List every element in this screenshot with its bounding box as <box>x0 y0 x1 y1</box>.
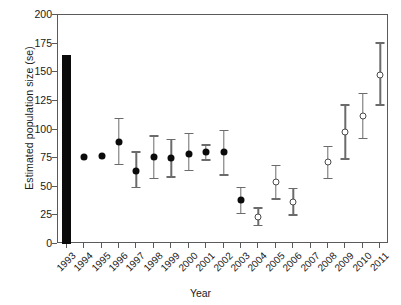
error-bar-cap <box>289 188 298 189</box>
x-tick-mark <box>275 243 276 248</box>
data-point-filled <box>115 139 122 146</box>
figure: Estimated population size (se) Year 0255… <box>0 0 401 305</box>
x-tick-label: 2011 <box>368 250 391 273</box>
x-tick-mark <box>240 243 241 248</box>
data-point-open <box>272 179 279 186</box>
error-bar-cap <box>202 144 211 145</box>
error-bar-cap <box>219 174 228 175</box>
error-bar-cap <box>376 104 385 105</box>
x-tick-mark <box>344 243 345 248</box>
error-bar-cap <box>114 118 123 119</box>
y-tick-label: 125 <box>12 94 52 106</box>
data-point-filled <box>237 197 244 204</box>
error-bar-cap <box>132 151 141 152</box>
error-bar-cap <box>358 138 367 139</box>
error-bar-cap <box>271 165 280 166</box>
error-bar-cap <box>149 178 158 179</box>
data-point-filled <box>150 153 157 160</box>
data-point-open <box>325 158 332 165</box>
x-tick-mark <box>153 243 154 248</box>
error-bar-cap <box>202 159 211 160</box>
error-bar-cap <box>376 42 385 43</box>
x-tick-mark <box>118 243 119 248</box>
error-bar-cap <box>236 213 245 214</box>
data-point-filled <box>185 150 192 157</box>
error-bar-cap <box>254 207 263 208</box>
data-point-filled <box>220 149 227 156</box>
x-axis-title: Year <box>0 287 401 299</box>
x-tick-mark <box>205 243 206 248</box>
data-point-open <box>342 128 349 135</box>
y-tick-label: 175 <box>12 37 52 49</box>
x-tick-mark <box>83 243 84 248</box>
x-tick-mark <box>101 243 102 248</box>
x-tick-mark <box>327 243 328 248</box>
error-bar-cap <box>114 164 123 165</box>
error-bar-cap <box>271 198 280 199</box>
error-bar-cap <box>219 130 228 131</box>
data-point-filled <box>133 167 140 174</box>
data-point-open <box>377 71 384 78</box>
error-bar-cap <box>149 135 158 136</box>
x-tick-mark <box>223 243 224 248</box>
x-tick-mark <box>188 243 189 248</box>
error-bar-cap <box>167 176 176 177</box>
x-tick-mark <box>310 243 311 248</box>
error-bar-cap <box>132 187 141 188</box>
error-bar-cap <box>324 146 333 147</box>
y-tick-label: 150 <box>12 65 52 77</box>
error-bar-cap <box>167 139 176 140</box>
x-tick-mark <box>292 243 293 248</box>
y-tick-label: 75 <box>12 151 52 163</box>
y-tick-mark <box>52 243 57 244</box>
bar <box>62 55 71 244</box>
error-bar-cap <box>184 133 193 134</box>
x-tick-mark <box>135 243 136 248</box>
x-tick-mark <box>362 243 363 248</box>
error-bar-cap <box>341 104 350 105</box>
error-bar-cap <box>254 225 263 226</box>
y-tick-label: 200 <box>12 8 52 20</box>
data-point-filled <box>203 149 210 156</box>
error-bar-cap <box>289 214 298 215</box>
error-bar-cap <box>358 93 367 94</box>
plot-area <box>57 14 388 243</box>
data-point-filled <box>98 152 105 159</box>
y-tick-label: 0 <box>12 237 52 249</box>
x-tick-mark <box>379 243 380 248</box>
error-bar-cap <box>184 170 193 171</box>
data-point-filled <box>168 155 175 162</box>
x-tick-mark <box>257 243 258 248</box>
data-point-open <box>255 213 262 220</box>
y-tick-label: 100 <box>12 123 52 135</box>
y-tick-label: 50 <box>12 180 52 192</box>
data-point-open <box>359 112 366 119</box>
error-bar-cap <box>324 178 333 179</box>
x-tick-mark <box>170 243 171 248</box>
y-tick-label: 25 <box>12 208 52 220</box>
data-point-filled <box>81 153 88 160</box>
data-point-open <box>290 198 297 205</box>
error-bar-cap <box>341 158 350 159</box>
error-bar-cap <box>236 187 245 188</box>
